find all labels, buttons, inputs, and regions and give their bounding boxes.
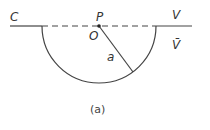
figure-caption: (a): [90, 103, 105, 116]
semicircle-arc: [42, 26, 156, 83]
center-point: [97, 24, 101, 28]
label-radius-a: a: [107, 50, 114, 64]
label-o: O: [89, 29, 98, 43]
label-c: C: [10, 10, 19, 24]
label-v: V: [172, 8, 181, 22]
label-p: P: [96, 10, 104, 24]
label-v-bar: V̄: [172, 38, 181, 52]
diagram-canvas: C P O V V̄ a (a): [0, 0, 210, 130]
radius-line: [99, 26, 133, 72]
